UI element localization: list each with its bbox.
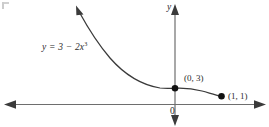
equation-expression: y = 3 − 2x — [42, 42, 84, 52]
curve-arrowhead — [76, 6, 84, 16]
y-axis-label: y — [167, 3, 171, 13]
y-axis-bottom-arrowhead — [171, 115, 179, 126]
point-label-0-3: (0, 3) — [184, 74, 204, 83]
equation-exponent: 3 — [84, 40, 87, 47]
x-axis-left-arrowhead — [4, 100, 16, 109]
equation-label: y = 3 − 2x3 — [42, 43, 88, 53]
math-figure: y = 3 − 2x3 y 0 (0, 3) (1, 1) — [0, 0, 269, 127]
graph-canvas — [0, 0, 269, 127]
function-curve — [80, 13, 222, 97]
point-label-1-1: (1, 1) — [228, 92, 248, 101]
origin-label: 0 — [170, 107, 175, 117]
x-axis-right-arrowhead — [254, 100, 266, 109]
point-marker-0-3 — [172, 85, 179, 92]
y-axis-top-arrowhead — [171, 4, 179, 15]
point-marker-1-1 — [218, 93, 225, 100]
